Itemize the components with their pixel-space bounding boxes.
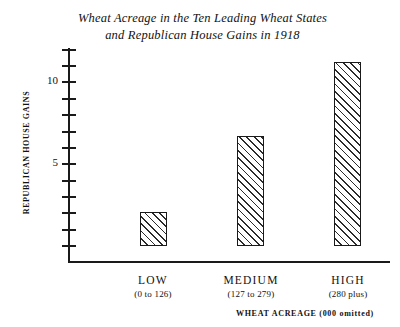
x-axis-title: WHEAT ACREAGE (000 omitted): [236, 309, 396, 318]
category-range-low: (0 to 126): [98, 289, 208, 299]
y-tick-7: [62, 131, 76, 133]
category-name-low: LOW: [98, 274, 208, 286]
y-tick-1: [62, 229, 76, 231]
category-label-high: HIGH (280 plus): [293, 274, 400, 299]
category-label-medium: MEDIUM (127 to 279): [196, 274, 306, 299]
plot-area: 5 10 REPUBLICAN HOUSE GAINS: [0, 0, 400, 290]
y-tick-label-10: 10: [28, 74, 58, 86]
y-tick-2: [62, 212, 76, 214]
y-tick-label-5: 5: [28, 156, 58, 168]
y-tick-9: [62, 98, 76, 100]
category-range-medium: (127 to 279): [196, 289, 306, 299]
category-range-high: (280 plus): [293, 289, 400, 299]
bar-medium: [237, 136, 264, 246]
y-tick-8: [62, 114, 76, 116]
x-axis-line: [68, 261, 390, 263]
y-tick-10: [62, 81, 76, 83]
y-tick-0: [62, 245, 76, 247]
chart-figure: Wheat Acreage in the Ten Leading Wheat S…: [0, 0, 400, 327]
y-tick-6: [62, 147, 76, 149]
category-name-medium: MEDIUM: [196, 274, 306, 286]
y-axis-title: REPUBLICAN HOUSE GAINS: [22, 83, 31, 223]
category-name-high: HIGH: [293, 274, 400, 286]
y-tick-5: [62, 163, 76, 165]
bar-low: [140, 212, 167, 246]
category-label-low: LOW (0 to 126): [98, 274, 208, 299]
y-tick-12: [62, 49, 76, 51]
bar-high: [334, 62, 361, 246]
y-tick-4: [62, 180, 76, 182]
y-tick-11: [62, 65, 76, 67]
y-tick-3: [62, 196, 76, 198]
